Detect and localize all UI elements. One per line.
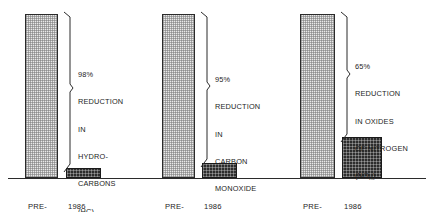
reduction-line: MONOXIDE <box>215 184 260 193</box>
reduction-line: CARBON <box>215 157 260 166</box>
tick-line: 1986 <box>68 202 86 212</box>
reduction-line: 95% <box>215 75 260 84</box>
emissions-reduction-chart: 98% REDUCTION IN HYDRO- CARBONS (HC) PRE… <box>0 0 432 212</box>
x-tick-label-pre-1966-co: PRE- 1966 <box>165 183 184 212</box>
reduction-line: REDUCTION <box>78 97 123 106</box>
x-tick-label-1986-oxides-of-nitrogen: 1986 <box>344 183 362 212</box>
x-tick-label-1986-hydrocarbons: 1986 <box>68 183 86 212</box>
baseline-bar-carbon-monoxide <box>162 14 195 178</box>
tick-line: PRE- <box>28 202 47 212</box>
reduction-brace-oxides-of-nitrogen <box>337 12 351 142</box>
reduction-line: REDUCTION <box>215 102 260 111</box>
reduction-line: 65% <box>355 62 408 71</box>
tick-line: PRE- <box>303 202 322 212</box>
reduction-brace-hydrocarbons <box>60 12 74 172</box>
reduction-brace-carbon-monoxide <box>197 12 211 167</box>
baseline-bar-hydrocarbons <box>25 14 58 178</box>
x-tick-label-1986-carbon-monoxide: 1986 <box>204 183 222 212</box>
reduction-line: IN OXIDES <box>355 117 408 126</box>
reduction-line: IN <box>78 125 123 134</box>
reduction-line-nox: (NOX) <box>355 171 408 181</box>
axis-baseline-oxides-of-nitrogen <box>282 178 426 179</box>
reduction-line: REDUCTION <box>355 89 408 98</box>
x-tick-label-pre-1966: PRE- 1966 <box>28 183 47 212</box>
axis-baseline-hydrocarbons <box>8 178 140 179</box>
tick-line: 1986 <box>344 202 362 212</box>
reduction-line: 98% <box>78 70 123 79</box>
tick-line: 1986 <box>204 202 222 212</box>
axis-baseline-carbon-monoxide <box>140 178 282 179</box>
reduction-line: OF NITROGEN <box>355 144 408 153</box>
chart-group-hydrocarbons: 98% REDUCTION IN HYDRO- CARBONS (HC) PRE… <box>0 0 140 212</box>
chart-group-oxides-of-nitrogen: 65% REDUCTION IN OXIDES OF NITROGEN (NOX… <box>282 0 432 212</box>
reduction-line: HYDRO- <box>78 152 123 161</box>
x-tick-label-pre-1973: PRE- 1973 <box>303 183 322 212</box>
baseline-bar-oxides-of-nitrogen <box>300 14 335 178</box>
reduction-label-oxides-of-nitrogen: 65% REDUCTION IN OXIDES OF NITROGEN (NOX… <box>355 44 408 200</box>
reduction-line: IN <box>215 130 260 139</box>
chart-group-carbon-monoxide: 95% REDUCTION IN CARBON MONOXIDE (CO) PR… <box>140 0 282 212</box>
tick-line: PRE- <box>165 202 184 212</box>
reduction-label-carbon-monoxide: 95% REDUCTION IN CARBON MONOXIDE (CO) <box>215 57 260 212</box>
